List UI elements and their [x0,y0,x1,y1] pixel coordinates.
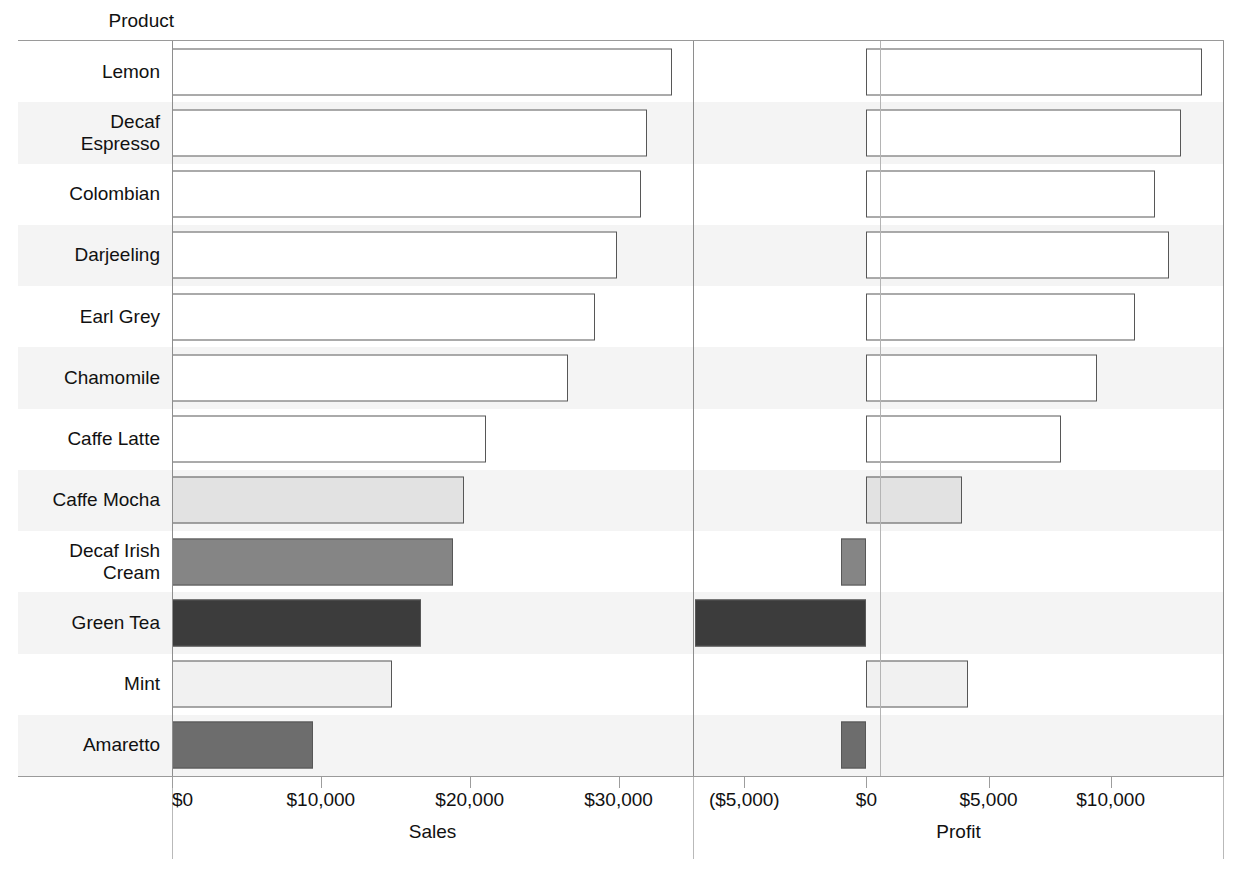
profit-tick-label: $10,000 [1076,789,1145,811]
row-label-caffe-mocha: Caffe Mocha [18,470,166,531]
sales-bar[interactable] [172,171,641,218]
sales-bar[interactable] [172,109,647,156]
sales-bar[interactable] [172,661,392,708]
sales-tick-label: $0 [172,789,193,811]
profit-bar[interactable] [866,416,1060,463]
row-field-header: Product [18,10,174,32]
profit-tick [866,777,867,788]
profit-track [693,225,1223,286]
sales-tick [619,777,620,788]
profit-bar[interactable] [866,232,1169,279]
chart-row: Caffe Latte [18,409,1224,470]
row-label-darjeeling: Darjeeling [18,225,166,286]
sales-track [172,347,693,408]
profit-bar[interactable] [866,171,1154,218]
profit-tick [1111,777,1112,788]
row-label-chamomile: Chamomile [18,347,166,408]
profit-track [693,409,1223,470]
chart-row: Earl Grey [18,286,1224,347]
chart-rows: LemonDecaf EspressoColombianDarjeelingEa… [18,41,1224,776]
chart-row: Decaf Irish Cream [18,531,1224,592]
row-label-earl-grey: Earl Grey [18,286,166,347]
row-label-mint: Mint [18,654,166,715]
sales-tick-label: $10,000 [287,789,356,811]
profit-bar[interactable] [695,599,866,646]
profit-track [693,102,1223,163]
row-label-caffe-latte: Caffe Latte [18,409,166,470]
profit-tick-label: $5,000 [959,789,1017,811]
sales-track [172,654,693,715]
axis-title-profit: Profit [693,821,1224,843]
chart-row: Caffe Mocha [18,470,1224,531]
profit-tick [744,777,745,788]
sales-bar[interactable] [172,48,672,95]
sales-tick [470,777,471,788]
row-label-decaf-espresso: Decaf Espresso [18,102,166,163]
profit-tick-label: $0 [856,789,877,811]
chart-row: Green Tea [18,592,1224,653]
profit-track [693,715,1223,776]
sales-track [172,225,693,286]
sales-bar[interactable] [172,722,313,769]
profit-bar[interactable] [841,538,867,585]
profit-bar[interactable] [866,661,967,708]
row-label-decaf-irish-cream: Decaf Irish Cream [18,531,166,592]
chart-canvas: Product LemonDecaf EspressoColombianDarj… [0,0,1236,875]
profit-track [693,41,1223,102]
profit-track [693,164,1223,225]
chart-row: Lemon [18,41,1224,102]
sales-bar[interactable] [172,293,595,340]
sales-bar[interactable] [172,416,486,463]
row-label-colombian: Colombian [18,164,166,225]
profit-track [693,347,1223,408]
sales-tick-label: $30,000 [584,789,653,811]
sales-track [172,592,693,653]
chart-row: Chamomile [18,347,1224,408]
panel-divider [693,41,694,776]
chart-row: Colombian [18,164,1224,225]
axis-title-sales: Sales [172,821,693,843]
sales-tick-label: $20,000 [435,789,504,811]
sales-bar[interactable] [172,477,464,524]
sales-track [172,102,693,163]
row-label-green-tea: Green Tea [18,592,166,653]
chart-row: Darjeeling [18,225,1224,286]
sales-track [172,409,693,470]
profit-zero-line [880,41,881,776]
sales-bar[interactable] [172,538,453,585]
sales-bar[interactable] [172,354,568,401]
row-label-amaretto: Amaretto [18,715,166,776]
sales-track [172,41,693,102]
row-label-lemon: Lemon [18,41,166,102]
profit-bar[interactable] [866,293,1135,340]
profit-tick-label: ($5,000) [709,789,780,811]
profit-bar[interactable] [866,48,1202,95]
profit-track [693,286,1223,347]
sales-track [172,164,693,225]
profit-track [693,592,1223,653]
profit-track [693,531,1223,592]
sales-bar[interactable] [172,599,421,646]
plot-right-border [1223,41,1224,776]
sales-track [172,531,693,592]
chart-row: Decaf Espresso [18,102,1224,163]
sales-bar[interactable] [172,232,617,279]
axis-profit: Profit ($5,000)$0$5,000$10,000 [693,777,1224,873]
sales-tick [172,777,173,788]
profit-track [693,654,1223,715]
sales-track [172,715,693,776]
axis-sales: Sales $0$10,000$20,000$30,000 [172,777,693,873]
profit-track [693,470,1223,531]
chart-row: Mint [18,654,1224,715]
profit-bar[interactable] [866,109,1181,156]
plot-left-border [172,41,173,776]
profit-bar[interactable] [866,354,1097,401]
profit-bar[interactable] [841,722,866,769]
sales-track [172,286,693,347]
sales-track [172,470,693,531]
chart-row: Amaretto [18,715,1224,776]
sales-tick [321,777,322,788]
profit-tick [989,777,990,788]
